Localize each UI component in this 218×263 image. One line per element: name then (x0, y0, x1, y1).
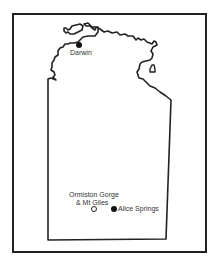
darwin-label: Darwin (70, 49, 92, 57)
alice-springs-label: Alice Springs (118, 205, 159, 213)
alice-springs-marker[interactable] (111, 206, 117, 212)
territory-outline-map (0, 0, 218, 263)
ormiston-gorge-label: Ormiston Gorge (69, 191, 119, 199)
ormiston-gorge-marker[interactable] (91, 206, 97, 212)
tiwi-islands (64, 24, 83, 34)
groote-eylandt (150, 65, 155, 72)
darwin-marker[interactable] (76, 42, 82, 48)
